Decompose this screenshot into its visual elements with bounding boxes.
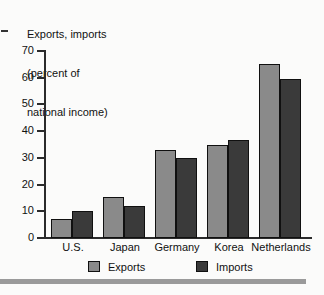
y-tick-mark [37, 50, 44, 52]
y-axis-line [44, 50, 46, 239]
y-tick-label: 60 [2, 72, 34, 83]
y-tick-mark [37, 210, 44, 212]
bar-netherlands-exports [259, 64, 280, 238]
bar-us-exports [51, 219, 72, 238]
y-tick-label: 0 [2, 232, 34, 243]
bar-korea-exports [207, 145, 228, 239]
y-tick-label: 10 [2, 205, 34, 216]
y-tick-label: 70 [2, 45, 34, 56]
x-axis-label-netherlands: Netherlands [240, 241, 322, 253]
y-tick-label: 30 [2, 152, 34, 163]
bar-us-imports [72, 211, 93, 238]
y-tick-mark [37, 130, 44, 132]
y-tick-label: 40 [2, 125, 34, 136]
y-tick-mark [37, 103, 44, 105]
bar-netherlands-imports [280, 79, 301, 238]
bar-germany-exports [155, 150, 176, 238]
chart-figure: Exports, imports (percent of national in… [0, 0, 324, 295]
legend-label-exports: Exports [108, 262, 145, 273]
bar-korea-imports [228, 140, 249, 238]
bar-japan-exports [103, 197, 124, 238]
bar-germany-imports [176, 158, 197, 238]
legend-swatch-exports [88, 261, 100, 272]
y-tick-mark [37, 184, 44, 186]
y-tick-label: 20 [2, 179, 34, 190]
bottom-rule [0, 279, 306, 284]
y-tick-label: 50 [2, 98, 34, 109]
y-tick-mark [37, 157, 44, 159]
bar-japan-imports [124, 206, 145, 238]
plot-area: 010203040506070 U.S.JapanGermanyKoreaNet… [0, 0, 324, 295]
y-tick-mark [37, 77, 44, 79]
legend-label-imports: Imports [216, 262, 253, 273]
legend-swatch-imports [196, 261, 208, 272]
y-tick-mark [37, 237, 44, 239]
